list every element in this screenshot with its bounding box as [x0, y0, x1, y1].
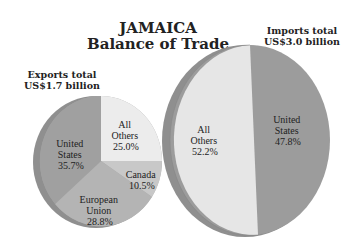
label-imp-us: United States 47.8%: [273, 114, 303, 147]
pie-charts: All Others 25.0% Canada 10.5% European U…: [0, 0, 356, 252]
label-exp-canada: Canada 10.5%: [126, 169, 159, 191]
imports-pie: [162, 45, 330, 237]
label-exp-us: United States 35.7%: [56, 138, 86, 171]
